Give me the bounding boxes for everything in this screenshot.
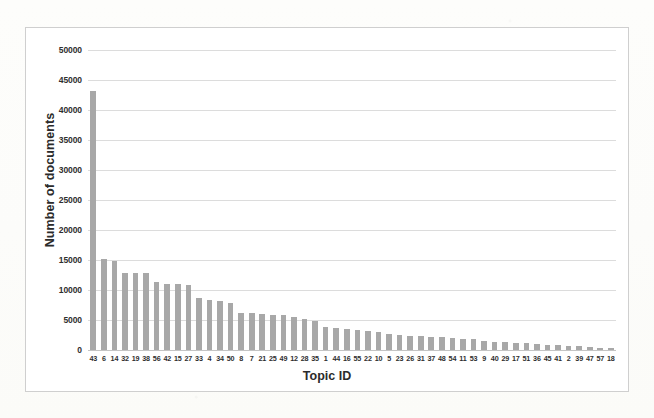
bar	[333, 328, 339, 350]
bar-slot	[373, 50, 384, 350]
bar-slot	[120, 50, 131, 350]
bar-slot	[500, 50, 511, 350]
bar-slot	[468, 50, 479, 350]
bar-slot	[553, 50, 564, 350]
x-axis-tick-label: 50	[225, 353, 236, 367]
x-axis-tick-label: 28	[299, 353, 310, 367]
x-axis-tick-label: 49	[278, 353, 289, 367]
bar-slot	[257, 50, 268, 350]
x-axis-tick-label: 10	[373, 353, 384, 367]
x-axis-tick-label: 57	[595, 353, 606, 367]
x-axis-tick-labels: 4361432193856421527334345087212549122835…	[88, 353, 616, 367]
bar	[460, 339, 466, 350]
bar-slot	[278, 50, 289, 350]
bar	[428, 337, 434, 350]
bar-slot	[363, 50, 374, 350]
bar-slot	[394, 50, 405, 350]
bar	[418, 336, 424, 350]
bar	[249, 313, 255, 350]
bar-slot	[151, 50, 162, 350]
bar-slot	[584, 50, 595, 350]
bar	[90, 91, 96, 350]
x-axis-tick-label: 53	[468, 353, 479, 367]
bar-slot	[299, 50, 310, 350]
bar-slot	[236, 50, 247, 350]
bar-slot	[204, 50, 215, 350]
bar	[545, 345, 551, 350]
bar-slot	[447, 50, 458, 350]
bar	[513, 343, 519, 350]
x-axis-tick-label: 16	[342, 353, 353, 367]
y-axis-tick-label: 20000	[59, 225, 82, 235]
x-axis-tick-label: 21	[257, 353, 268, 367]
y-axis-title: Number of documents	[43, 60, 57, 300]
y-axis-tick-label: 45000	[59, 75, 82, 85]
bar	[281, 315, 287, 350]
bar-slot	[489, 50, 500, 350]
bar-slot	[162, 50, 173, 350]
bar	[587, 347, 593, 350]
bar	[481, 341, 487, 350]
bar	[608, 348, 614, 350]
bar-slot	[183, 50, 194, 350]
bar-slot	[130, 50, 141, 350]
x-axis-tick-label: 40	[489, 353, 500, 367]
x-axis-tick-label: 2	[563, 353, 574, 367]
bar-slot	[595, 50, 606, 350]
bar	[259, 314, 265, 350]
y-axis-tick-label: 0	[77, 345, 82, 355]
bar-slot	[606, 50, 617, 350]
x-axis-tick-label: 25	[268, 353, 279, 367]
x-axis-tick-label: 34	[215, 353, 226, 367]
x-axis-tick-label: 41	[553, 353, 564, 367]
bar-slot	[246, 50, 257, 350]
x-axis-tick-label: 29	[500, 353, 511, 367]
bar	[502, 342, 508, 350]
x-axis-tick-label: 47	[584, 353, 595, 367]
bar	[133, 273, 139, 350]
bar	[323, 327, 329, 350]
x-axis-tick-label: 22	[363, 353, 374, 367]
x-axis-tick-label: 18	[606, 353, 617, 367]
bar	[534, 344, 540, 350]
x-axis-tick-label: 1	[320, 353, 331, 367]
bar	[101, 259, 107, 350]
x-axis-tick-label: 11	[458, 353, 469, 367]
x-axis-tick-label: 14	[109, 353, 120, 367]
bar	[376, 332, 382, 350]
x-axis-tick-label: 31	[415, 353, 426, 367]
bar-slot	[99, 50, 110, 350]
bar-slot	[225, 50, 236, 350]
bar	[524, 343, 530, 350]
bar	[355, 330, 361, 350]
bar	[217, 301, 223, 350]
y-axis-tick-label: 30000	[59, 165, 82, 175]
x-axis-tick-label: 7	[246, 353, 257, 367]
bar-slot	[511, 50, 522, 350]
bar	[344, 329, 350, 350]
bar	[365, 331, 371, 350]
y-axis-tick-label: 15000	[59, 255, 82, 265]
x-axis-tick-label: 19	[130, 353, 141, 367]
bar	[186, 285, 192, 350]
bar	[439, 337, 445, 350]
figure-page: Number of documents 05000100001500020000…	[0, 0, 654, 418]
bar	[450, 338, 456, 350]
x-axis-tick-label: 23	[394, 353, 405, 367]
x-axis-tick-label: 44	[331, 353, 342, 367]
bar-slot	[574, 50, 585, 350]
y-axis-tick-label: 5000	[63, 315, 82, 325]
bar-slot	[426, 50, 437, 350]
bar-slot	[342, 50, 353, 350]
bar	[312, 321, 318, 350]
bar	[175, 284, 181, 350]
x-axis-tick-label: 26	[405, 353, 416, 367]
x-axis-tick-label: 4	[204, 353, 215, 367]
bar-slot	[437, 50, 448, 350]
bar	[164, 284, 170, 350]
gridline: 0	[88, 350, 616, 351]
x-axis-tick-label: 27	[183, 353, 194, 367]
x-axis-tick-label: 15	[173, 353, 184, 367]
x-axis-tick-label: 51	[521, 353, 532, 367]
bar	[207, 300, 213, 350]
